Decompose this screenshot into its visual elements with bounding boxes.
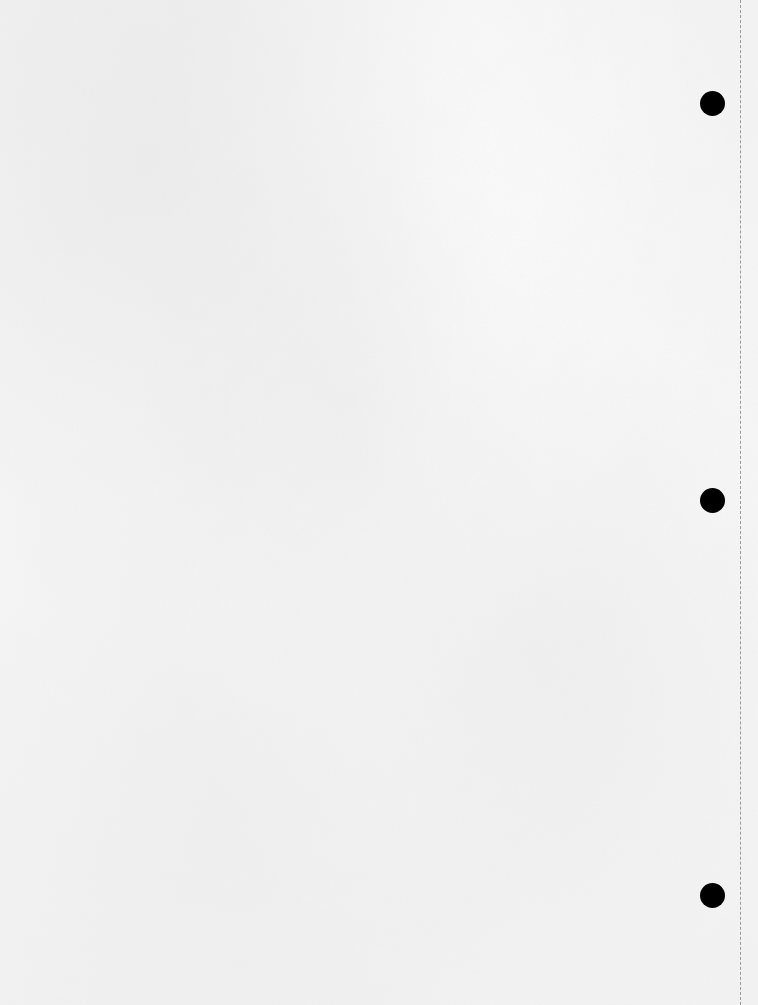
punch-hole-top — [700, 91, 725, 116]
paper-sheet — [0, 0, 758, 1005]
punch-hole-middle — [700, 488, 725, 513]
perforation-line — [740, 0, 741, 1005]
paper-texture — [0, 0, 758, 1005]
punch-hole-bottom — [700, 883, 725, 908]
